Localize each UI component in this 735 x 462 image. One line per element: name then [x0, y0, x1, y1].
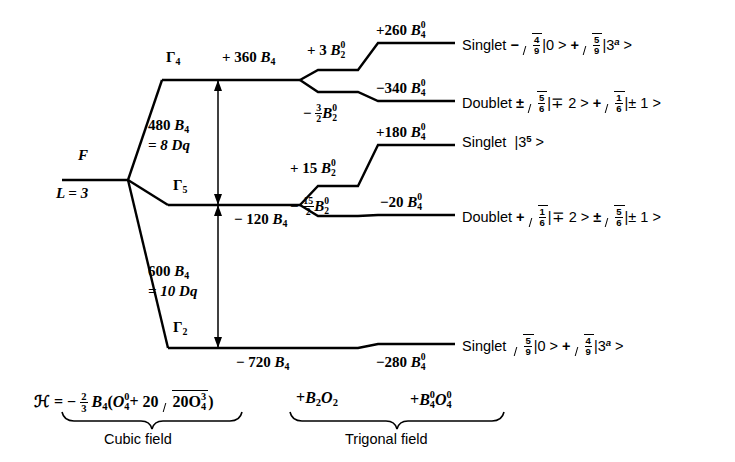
cubic-field-caption: Cubic field — [104, 432, 172, 447]
trigonal-shift-label-2: − 32B02 — [303, 103, 337, 125]
state-description-3: Singlet |35 > — [462, 135, 544, 150]
trigonal-shift-label-4: − 152B02 — [290, 196, 329, 218]
free-ion-L-label: L = 3 — [56, 186, 88, 201]
gamma4-symmetry-label: Γ4 — [166, 50, 180, 65]
gamma4-energy-label: + 360 B4 — [222, 50, 276, 65]
state-description-5: Singlet 59|0 > + 49|3a > — [462, 334, 624, 357]
final-energy-label-4: −20 B04 — [380, 192, 422, 212]
cubic-field-brace — [62, 412, 242, 429]
connector-gamma4-lower — [300, 80, 345, 92]
energy-level-diagram-figure: F L = 3 Γ4 Γ5 Γ2 + 360 B4 − 120 B4 − 720… — [0, 0, 735, 462]
state-description-4: Doublet + 16|∓ 2 > ± 56|± 1 > — [462, 205, 661, 228]
final-level-line-4 — [345, 215, 455, 216]
state-description-1: Singlet − 49|0 > + 59|3a > — [462, 33, 632, 56]
final-level-line-3 — [345, 145, 455, 186]
gap-label-2: 600 B4 — [148, 264, 189, 279]
connector-gamma4-upper — [300, 70, 345, 80]
gamma2-energy-label: − 720 B4 — [236, 355, 290, 370]
hamiltonian-trigonal-term-2: +B04O04 — [410, 390, 452, 411]
gamma2-symmetry-label: Γ2 — [173, 320, 187, 335]
final-level-line-5 — [345, 344, 455, 348]
final-energy-label-3: +180 B04 — [376, 122, 426, 142]
gap-label-1: 480 B4 — [148, 118, 189, 133]
gap-label-1-dq: = 8 Dq — [148, 138, 190, 153]
trigonal-shift-label-3: + 15 B02 — [290, 158, 336, 178]
hamiltonian-trigonal-term-1: +B2O2 — [296, 390, 338, 406]
free-ion-term-label: F — [78, 148, 88, 163]
trigonal-field-brace — [290, 412, 504, 429]
gap-arrow-2-head-down — [214, 337, 222, 348]
gap-label-2-dq: = 10 Dq — [148, 284, 197, 299]
gap-arrow-2-head-up — [214, 205, 222, 216]
trigonal-field-caption: Trigonal field — [345, 432, 427, 447]
trigonal-shift-label-1: + 3 B02 — [307, 40, 345, 60]
gap-arrow-1-head-up — [214, 80, 222, 91]
state-description-2: Doublet ± 56|∓ 2 > + 16|± 1 > — [462, 91, 661, 114]
final-energy-label-2: −340 B04 — [376, 78, 426, 98]
final-energy-label-5: −280 B04 — [376, 352, 426, 372]
gamma5-symmetry-label: Γ5 — [173, 178, 187, 193]
final-level-line-1 — [345, 43, 455, 70]
gamma5-energy-label: − 120 B4 — [234, 212, 288, 227]
gap-arrow-1-head-down — [214, 194, 222, 205]
hamiltonian-equation: ℋ = − 23 B4(O04+ 20 20O34) — [34, 390, 214, 414]
final-energy-label-1: +260 B04 — [376, 20, 426, 40]
